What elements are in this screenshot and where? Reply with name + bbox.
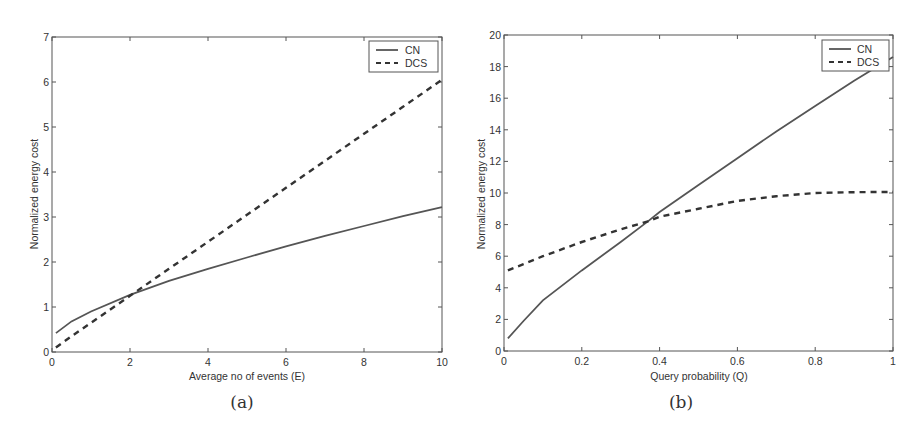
y-tick-label: 4 — [43, 166, 49, 178]
axis-ticks-a: 024681001234567 — [43, 31, 448, 368]
chart-panel-b: 00.20.40.60.8102468101214161820 Query pr… — [459, 0, 918, 443]
legend-a: CN DCS — [369, 41, 438, 72]
y-tick-label: 10 — [489, 187, 501, 199]
y-tick-label: 4 — [495, 282, 501, 294]
y-tick-label: 0 — [495, 345, 501, 357]
legend-cn-label-a: CN — [405, 44, 420, 56]
x-tick-label: 0 — [501, 355, 507, 367]
series-dcs-line-a — [56, 80, 442, 348]
y-tick-label: 0 — [43, 346, 49, 358]
series-cn-line-b — [508, 57, 893, 338]
plot-area-a — [52, 37, 442, 352]
x-tick-label: 0.4 — [652, 355, 667, 367]
series-dcs-line-b — [508, 192, 893, 271]
y-tick-label: 18 — [489, 61, 501, 73]
x-tick-label: 1 — [890, 355, 896, 367]
legend-dcs-label-b: DCS — [857, 56, 879, 68]
y-tick-label: 12 — [489, 155, 501, 167]
y-tick-label: 6 — [43, 76, 49, 88]
y-axis-label-a: Normalized energy cost — [28, 139, 40, 249]
y-tick-label: 2 — [495, 313, 501, 325]
legend-b: CN DCS — [822, 40, 889, 71]
x-axis-label-a: Average no of events (E) — [189, 370, 305, 382]
y-tick-label: 8 — [495, 219, 501, 231]
axis-ticks-b: 00.20.40.60.8102468101214161820 — [489, 29, 896, 367]
y-tick-label: 20 — [489, 29, 501, 41]
chart-panel-a: 024681001234567 Average no of events (E)… — [0, 0, 459, 443]
y-tick-label: 7 — [43, 31, 49, 43]
y-tick-label: 3 — [43, 211, 49, 223]
x-tick-label: 0.2 — [574, 355, 589, 367]
x-tick-label: 2 — [127, 356, 133, 368]
legend-dcs-label-a: DCS — [405, 57, 427, 69]
x-tick-label: 0 — [49, 356, 55, 368]
x-axis-label-b: Query probability (Q) — [650, 370, 747, 382]
legend-cn-label-b: CN — [857, 43, 872, 55]
chart-b-svg: 00.20.40.60.8102468101214161820 Query pr… — [459, 0, 918, 443]
caption-b: (b) — [641, 392, 721, 412]
y-tick-label: 14 — [489, 124, 501, 136]
x-tick-label: 0.6 — [730, 355, 745, 367]
x-tick-label: 0.8 — [808, 355, 823, 367]
x-tick-label: 10 — [436, 356, 448, 368]
y-tick-label: 6 — [495, 250, 501, 262]
y-tick-label: 1 — [43, 301, 49, 313]
caption-a: (a) — [202, 392, 282, 412]
chart-a-svg: 024681001234567 Average no of events (E)… — [0, 0, 459, 443]
x-tick-label: 8 — [361, 356, 367, 368]
series-cn-line-a — [56, 207, 442, 333]
x-tick-label: 4 — [205, 356, 211, 368]
y-tick-label: 2 — [43, 256, 49, 268]
plot-area-b — [504, 35, 893, 351]
y-tick-label: 16 — [489, 92, 501, 104]
y-tick-label: 5 — [43, 121, 49, 133]
x-tick-label: 6 — [283, 356, 289, 368]
y-axis-label-b: Normalized energy cost — [475, 139, 487, 249]
